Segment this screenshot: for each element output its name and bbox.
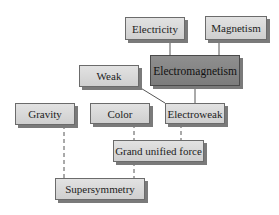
node-label: Magnetism <box>211 22 261 34</box>
node-electroweak: Electroweak <box>165 103 225 124</box>
node-color: Color <box>90 103 150 124</box>
node-gravity: Gravity <box>15 103 75 125</box>
node-label: Color <box>107 108 132 120</box>
node-grand-unified-force: Grand unified force <box>113 140 204 162</box>
node-electricity: Electricity <box>125 17 185 40</box>
node-label: Gravity <box>28 108 62 120</box>
node-electromagnetism: Electromagnetism <box>150 55 240 86</box>
edge-weak-electroweak <box>139 87 165 103</box>
force-unification-diagram: Electricity Magnetism Electromagnetism W… <box>0 0 279 215</box>
node-label: Electricity <box>132 23 178 35</box>
node-label: Grand unified force <box>115 145 202 157</box>
node-label: Supersymmetry <box>65 183 135 195</box>
node-label: Electromagnetism <box>153 65 237 77</box>
node-label: Electroweak <box>168 108 223 120</box>
node-label: Weak <box>97 70 122 82</box>
node-magnetism: Magnetism <box>205 16 267 40</box>
node-supersymmetry: Supersymmetry <box>55 178 145 200</box>
node-weak: Weak <box>79 65 139 87</box>
